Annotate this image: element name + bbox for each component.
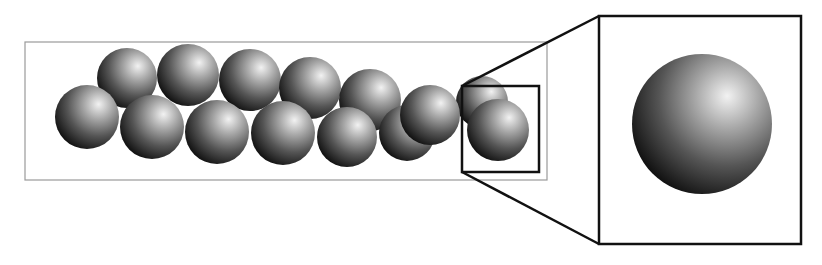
zoom-connector-top xyxy=(462,16,599,86)
zoom-connector-bottom xyxy=(462,172,599,244)
sphere xyxy=(120,95,184,159)
sphere-chain xyxy=(55,44,529,167)
inset-sphere xyxy=(632,54,772,194)
sphere xyxy=(400,85,460,145)
sphere xyxy=(185,100,249,164)
sphere xyxy=(219,49,281,111)
sphere xyxy=(467,99,529,161)
sphere xyxy=(55,85,119,149)
sphere xyxy=(317,107,377,167)
sphere xyxy=(251,101,315,165)
sphere xyxy=(157,44,219,106)
sphere-packing-diagram xyxy=(0,0,822,265)
